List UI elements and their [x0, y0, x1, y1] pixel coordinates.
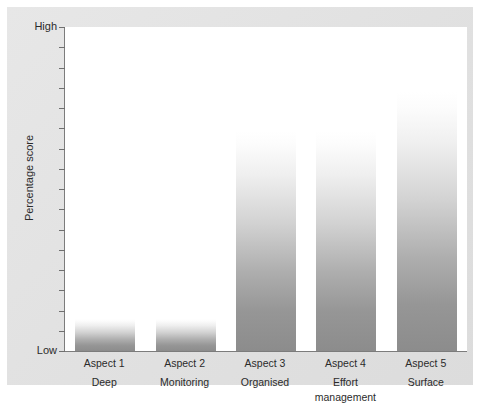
x-axis-subtitle-label: Effort management — [305, 375, 385, 403]
x-axis-label-group: Aspect 2Monitoring — [144, 356, 224, 390]
y-axis-high-label: High — [19, 20, 57, 32]
x-axis-subtitle-label: Monitoring — [144, 375, 224, 390]
x-axis-category-label: Aspect 1 — [64, 356, 144, 371]
x-axis-category-label: Aspect 4 — [305, 356, 385, 371]
x-axis-subtitle-label: Surface — [386, 375, 466, 390]
y-axis-tick — [59, 351, 65, 352]
bar — [236, 131, 296, 351]
bar — [75, 319, 135, 351]
chart-panel: High Low Percentage score Aspect 1DeepAs… — [7, 7, 473, 385]
x-axis-label-group: Aspect 3Organised — [225, 356, 305, 390]
plot-area — [64, 27, 467, 352]
bar — [156, 319, 216, 351]
bar-series — [65, 27, 467, 351]
x-axis-labels: Aspect 1DeepAspect 2MonitoringAspect 3Or… — [64, 356, 466, 396]
bar-chart-figure: High Low Percentage score Aspect 1DeepAs… — [0, 0, 480, 403]
x-axis-category-label: Aspect 5 — [386, 356, 466, 371]
bar — [316, 131, 376, 351]
x-axis-subtitle-label: Deep — [64, 375, 144, 390]
y-axis-title: Percentage score — [23, 108, 35, 248]
x-axis-label-group: Aspect 5Surface — [386, 356, 466, 390]
x-axis-label-group: Aspect 1Deep — [64, 356, 144, 390]
x-axis-category-label: Aspect 3 — [225, 356, 305, 371]
x-axis-subtitle-label: Organised — [225, 375, 305, 390]
y-axis-low-label: Low — [19, 344, 57, 356]
bar — [397, 92, 457, 351]
x-axis-category-label: Aspect 2 — [144, 356, 224, 371]
x-axis-label-group: Aspect 4Effort management — [305, 356, 385, 403]
